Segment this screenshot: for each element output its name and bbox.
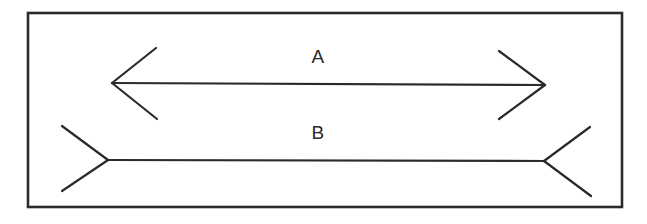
label-b: B bbox=[311, 122, 324, 143]
muller-lyer-diagram: A B bbox=[0, 0, 647, 224]
figure-background bbox=[0, 0, 647, 224]
line-b-shaft bbox=[108, 160, 544, 161]
figure-canvas: A B bbox=[0, 0, 647, 224]
label-a: A bbox=[311, 46, 324, 67]
